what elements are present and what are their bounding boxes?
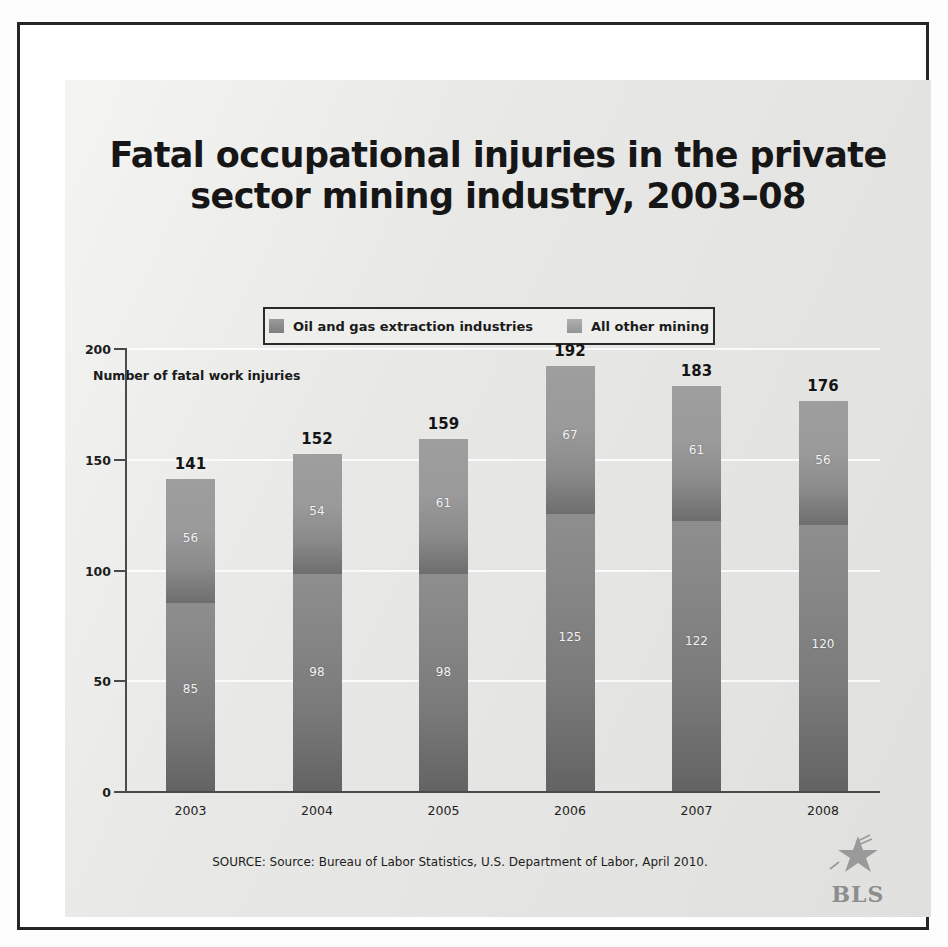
x-axis-tick-label: 2005 [428, 803, 460, 818]
bar-segment-oil-and-gas[interactable]: 120 [799, 525, 848, 791]
bar-segment-all-other-mining[interactable]: 56 [799, 401, 848, 525]
legend-item-oil-and-gas[interactable]: Oil and gas extraction industries [269, 319, 533, 334]
bar-group-2003[interactable]: 14156852003 [166, 479, 215, 791]
bls-logo: BLS [817, 832, 899, 904]
scanned-page: Fatal occupational injuries in the priva… [0, 0, 948, 947]
bar-total-label: 141 [175, 455, 206, 473]
bar-group-2005[interactable]: 15961982005 [419, 439, 468, 791]
gridline [127, 570, 880, 572]
y-axis-tick-mark [114, 791, 125, 793]
y-axis-tick-label: 50 [71, 674, 111, 689]
bar-group-2008[interactable]: 176561202008 [799, 401, 848, 791]
y-axis-tick-mark [114, 680, 125, 682]
y-axis-tick-mark [114, 348, 125, 350]
bar-segment-value: 85 [183, 682, 198, 696]
bar-segment-value: 56 [183, 531, 198, 545]
bar-segment-all-other-mining[interactable]: 61 [672, 386, 721, 521]
x-axis-tick-label: 2006 [554, 803, 586, 818]
bar-total-label: 192 [554, 342, 585, 360]
chart-title: Fatal occupational injuries in the priva… [65, 135, 931, 218]
bar-total-label: 176 [807, 377, 838, 395]
y-axis-tick-mark [114, 570, 125, 572]
source-note: SOURCE: Source: Bureau of Labor Statisti… [65, 855, 855, 869]
y-axis-tick-label: 0 [71, 785, 111, 800]
bar-total-label: 183 [681, 362, 712, 380]
bar-total-label: 159 [428, 415, 459, 433]
y-axis-tick-label: 150 [71, 452, 111, 467]
bar-group-2007[interactable]: 183611222007 [672, 386, 721, 791]
bar-group-2004[interactable]: 15254982004 [293, 454, 342, 791]
bls-logo-text: BLS [817, 883, 899, 905]
bar-segment-value: 122 [685, 634, 708, 648]
gridline [127, 348, 880, 350]
bar-segment-value: 61 [436, 496, 451, 510]
bar-segment-value: 67 [562, 428, 577, 442]
bar-segment-value: 98 [436, 665, 451, 679]
legend-swatch-icon [567, 319, 582, 333]
x-axis-line [125, 791, 880, 793]
bar-segment-value: 120 [812, 637, 835, 651]
figure-panel: Fatal occupational injuries in the priva… [65, 80, 931, 917]
bar-segment-oil-and-gas[interactable]: 85 [166, 603, 215, 791]
bar-total-label: 152 [301, 430, 332, 448]
gridline [127, 680, 880, 682]
bar-segment-value: 56 [815, 453, 830, 467]
bar-group-2006[interactable]: 192671252006 [546, 366, 595, 791]
legend-label-oil-and-gas: Oil and gas extraction industries [293, 319, 533, 334]
bar-segment-oil-and-gas[interactable]: 98 [419, 574, 468, 791]
y-axis-tick-label: 100 [71, 563, 111, 578]
bar-segment-value: 54 [309, 504, 324, 518]
bar-segment-value: 125 [559, 630, 582, 644]
bar-segment-all-other-mining[interactable]: 67 [546, 366, 595, 514]
x-axis-tick-label: 2004 [301, 803, 333, 818]
bar-segment-oil-and-gas[interactable]: 122 [672, 521, 721, 791]
plot-area: 050100150200 141568520031525498200415961… [125, 348, 885, 793]
figure-outer-frame: Fatal occupational injuries in the priva… [17, 22, 929, 930]
bar-segment-oil-and-gas[interactable]: 125 [546, 514, 595, 791]
chart-legend: Oil and gas extraction industries All ot… [263, 307, 715, 345]
gridline [127, 459, 880, 461]
bar-segment-all-other-mining[interactable]: 61 [419, 439, 468, 574]
bar-segment-value: 61 [689, 443, 704, 457]
legend-label-all-other-mining: All other mining [591, 319, 709, 334]
legend-swatch-icon [269, 319, 284, 333]
x-axis-tick-label: 2008 [807, 803, 839, 818]
star-eagle-icon [826, 832, 890, 878]
y-axis-tick-mark [114, 459, 125, 461]
x-axis-tick-label: 2007 [681, 803, 713, 818]
bar-segment-value: 98 [309, 665, 324, 679]
y-axis-tick-label: 200 [71, 342, 111, 357]
bar-segment-all-other-mining[interactable]: 54 [293, 454, 342, 574]
x-axis-tick-label: 2003 [175, 803, 207, 818]
legend-item-all-other-mining[interactable]: All other mining [567, 319, 709, 334]
bar-segment-all-other-mining[interactable]: 56 [166, 479, 215, 603]
bar-segment-oil-and-gas[interactable]: 98 [293, 574, 342, 791]
